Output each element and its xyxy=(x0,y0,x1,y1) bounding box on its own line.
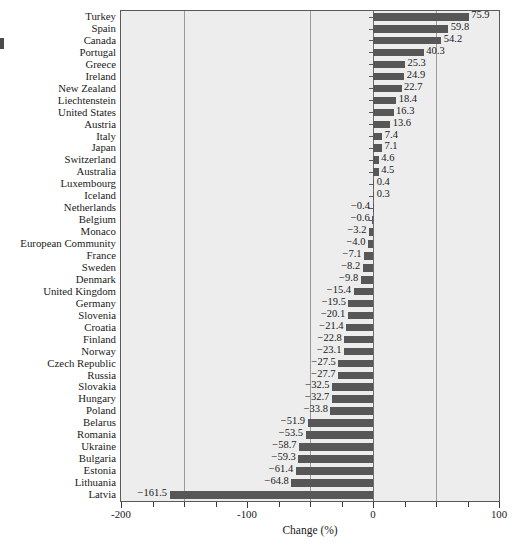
category-label: Luxembourg xyxy=(60,177,116,189)
row-tick xyxy=(369,100,373,101)
bar xyxy=(308,419,373,427)
bar-rows: 75.959.854.240.325.324.922.718.416.313.6… xyxy=(121,11,499,501)
bar-value-label: 18.4 xyxy=(399,93,417,105)
bar-row: −7.1 xyxy=(121,250,499,262)
bar xyxy=(299,443,373,451)
bar-value-label: 75.9 xyxy=(471,9,489,21)
row-tick xyxy=(369,64,373,65)
bar xyxy=(373,144,382,152)
category-label: France xyxy=(87,249,116,261)
category-label: Monaco xyxy=(81,225,116,237)
bar xyxy=(332,395,373,403)
bar-value-label: 24.9 xyxy=(407,69,425,81)
bar-value-label: 16.3 xyxy=(396,105,414,117)
bar-row: −0.6 xyxy=(121,214,499,226)
row-tick xyxy=(369,291,373,292)
bar-value-label: −20.1 xyxy=(321,308,345,320)
x-axis-tick xyxy=(184,502,185,507)
category-label: United States xyxy=(58,106,116,118)
bar xyxy=(298,455,373,463)
bar xyxy=(373,109,394,117)
row-tick xyxy=(369,136,373,137)
bar-row: −21.4 xyxy=(121,322,499,334)
category-label: Italy xyxy=(96,130,116,142)
bar xyxy=(170,491,373,499)
category-label: United Kingdom xyxy=(43,285,116,297)
bar-value-label: −59.3 xyxy=(271,451,295,463)
row-tick xyxy=(369,495,373,496)
bar-value-label: −0.4 xyxy=(351,200,370,212)
row-tick xyxy=(369,327,373,328)
bar-value-label: 13.6 xyxy=(393,117,411,129)
bar-row: 18.4 xyxy=(121,95,499,107)
bar-row: 0.4 xyxy=(121,178,499,190)
bar-row: −53.5 xyxy=(121,429,499,441)
bar xyxy=(373,61,405,69)
bar xyxy=(373,121,390,129)
bar-value-label: 7.4 xyxy=(385,129,398,141)
row-tick xyxy=(369,88,373,89)
category-label: Spain xyxy=(91,22,116,34)
x-axis-tick-label: 0 xyxy=(370,508,375,520)
row-tick xyxy=(369,268,373,269)
row-tick xyxy=(369,40,373,41)
row-tick xyxy=(369,280,373,281)
bar xyxy=(338,372,373,380)
bar-value-label: 54.2 xyxy=(444,33,462,45)
row-tick xyxy=(369,112,373,113)
bar-value-label: −8.2 xyxy=(341,260,360,272)
category-label: Ukraine xyxy=(81,440,116,452)
category-label: Germany xyxy=(76,297,116,309)
category-label: Russia xyxy=(87,369,116,381)
bar-row: 7.4 xyxy=(121,131,499,143)
bar xyxy=(332,383,373,391)
bar-row: −8.2 xyxy=(121,262,499,274)
category-label: Lithuania xyxy=(75,476,116,488)
category-label: Czech Republic xyxy=(47,357,116,369)
category-label: Finland xyxy=(83,333,116,345)
bar-value-label: 22.7 xyxy=(404,81,422,93)
bar-value-label: −0.6 xyxy=(351,212,370,224)
category-label: Poland xyxy=(86,404,116,416)
bar xyxy=(373,168,379,176)
category-label: Norway xyxy=(81,345,116,357)
bar-row: −23.1 xyxy=(121,346,499,358)
category-label: Liechtenstein xyxy=(58,94,116,106)
bar-row: 4.6 xyxy=(121,154,499,166)
bar-value-label: −53.5 xyxy=(279,427,303,439)
bar-row: −58.7 xyxy=(121,441,499,453)
x-axis-tick-label: -100 xyxy=(237,508,257,520)
bar-row: −27.5 xyxy=(121,358,499,370)
category-label: New Zealand xyxy=(58,82,116,94)
bar-value-label: −161.5 xyxy=(137,487,167,499)
bar-row: 13.6 xyxy=(121,119,499,131)
row-tick xyxy=(369,375,373,376)
bar-value-label: −22.8 xyxy=(317,332,341,344)
category-label: Japan xyxy=(91,141,116,153)
bar-value-label: −27.7 xyxy=(311,368,335,380)
x-axis-tick-label: -200 xyxy=(111,508,131,520)
category-label: Latvia xyxy=(88,488,116,500)
bar xyxy=(373,25,448,33)
bar-row: −4.0 xyxy=(121,238,499,250)
bar-value-label: 4.5 xyxy=(381,164,394,176)
bar-chart-figure: TurkeySpainCanadaPortugalGreeceIrelandNe… xyxy=(0,0,512,545)
bar-row: −0.4 xyxy=(121,202,499,214)
category-label: Belgium xyxy=(79,213,116,225)
x-axis-tick xyxy=(153,502,154,507)
bar xyxy=(373,192,374,200)
bar-row: 7.1 xyxy=(121,142,499,154)
x-axis-tick xyxy=(436,502,437,507)
bar-value-label: −4.0 xyxy=(346,236,365,248)
bar xyxy=(373,180,374,188)
bar-row: −59.3 xyxy=(121,453,499,465)
bar-value-label: 59.8 xyxy=(451,21,469,33)
bar-value-label: −15.4 xyxy=(327,284,351,296)
bar xyxy=(296,467,373,475)
bar xyxy=(373,73,404,81)
category-label: Croatia xyxy=(84,321,116,333)
bar-value-label: 25.3 xyxy=(407,57,425,69)
bar-value-label: −58.7 xyxy=(272,439,296,451)
x-axis: -200-1000100 xyxy=(120,502,500,520)
category-label: European Community xyxy=(20,237,116,249)
